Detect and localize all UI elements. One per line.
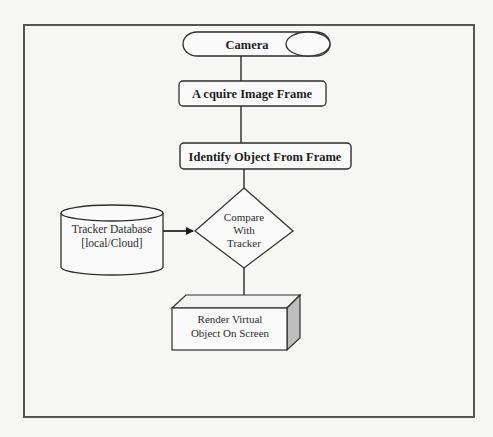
flowchart-diagram: Camera A cquire Image Frame Identify Obj… <box>0 0 493 437</box>
identify-label: Identify Object From Frame <box>189 150 342 164</box>
node-compare-decision: Compare With Tracker <box>195 188 293 268</box>
acquire-label: A cquire Image Frame <box>192 87 313 101</box>
node-camera: Camera <box>183 32 330 56</box>
node-identify-object: Identify Object From Frame <box>180 143 351 169</box>
camera-label: Camera <box>225 38 269 52</box>
compare-label-line-3: Tracker <box>227 237 261 249</box>
node-tracker-database: Tracker Database [local/Cloud] <box>61 205 163 275</box>
compare-label-line-1: Compare <box>224 211 264 223</box>
render-box-top <box>172 295 300 308</box>
render-label-line-1: Render Virtual <box>198 313 263 325</box>
node-render-virtual-object: Render Virtual Object On Screen <box>172 295 300 350</box>
render-label-line-2: Object On Screen <box>191 327 270 339</box>
camera-cylinder-end <box>286 32 330 56</box>
node-acquire-image-frame: A cquire Image Frame <box>179 81 326 106</box>
database-label-line-2: [local/Cloud] <box>81 237 142 249</box>
database-top <box>61 205 163 221</box>
database-label-line-1: Tracker Database <box>72 223 152 235</box>
compare-label-line-2: With <box>233 224 255 236</box>
